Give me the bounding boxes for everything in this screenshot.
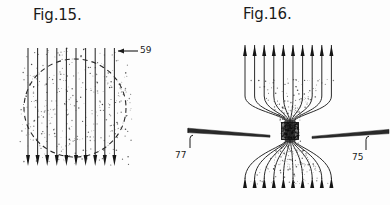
- figure-16-focal-core: [281, 122, 299, 141]
- pole-piece-left-label: 77: [175, 150, 186, 160]
- pole-piece-right-label: 75: [352, 152, 363, 162]
- pole-piece-left: [188, 128, 270, 148]
- figure-16-drawing: [0, 0, 390, 205]
- pole-piece-right: [312, 129, 389, 150]
- figure-16-field-lines: [243, 45, 333, 188]
- patent-figure-sheet: Fig.15. 59 Fig.16. 77 75: [0, 0, 390, 205]
